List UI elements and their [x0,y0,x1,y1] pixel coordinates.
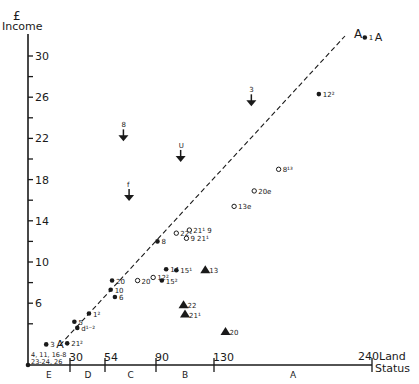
data-point: 1A [363,31,383,44]
x-axis: 305490130 EDCBA [28,351,372,380]
open-circle-marker [252,189,256,193]
zone-label: A [290,370,297,380]
data-point: 3 [246,86,256,106]
point-label: 13e [238,203,251,211]
data-point: 21² [65,340,83,348]
open-circle-marker [174,231,178,235]
y-axis: 6101418222630 [28,34,49,365]
point-label: 20 [116,278,125,286]
zone-label: D [85,370,92,380]
dot-marker [108,288,113,293]
data-point: 22 [179,300,197,310]
point-label: 21² [71,340,83,348]
open-circle-marker [151,275,155,279]
data-point: 12² [317,91,335,99]
point-label: 22 [188,302,197,310]
data-point: 8¹³ [276,166,292,174]
data-point: 20 [220,327,238,337]
data-point: 13 [200,265,218,275]
x-tick-label: 90 [155,351,169,364]
open-circle-marker [232,204,236,208]
x-tick-label: 30 [69,351,83,364]
data-point: 21¹ [180,310,201,320]
dot-marker [44,342,49,347]
zone-label: E [46,370,52,380]
dot-marker [317,92,322,97]
arrow-down-icon [246,100,256,106]
y-tick-label: 10 [35,256,49,269]
dot-marker [164,267,169,272]
point-label: 21¹ 9 [193,227,211,235]
dot-marker [174,268,179,273]
point-suffix: A [375,31,383,44]
point-label: 1 [369,34,373,42]
zone-label: C [128,370,134,380]
open-circle-marker [187,228,191,232]
point-label: 8 [121,121,125,129]
arrow-down-icon [118,135,128,141]
dot-marker [26,363,31,368]
trend-label: A [354,27,363,41]
data-point: 12² [151,274,169,282]
data-point: f [124,181,134,201]
y-axis-title: Income [2,20,43,33]
point-label: 3 [249,86,253,94]
x-axis-title-line2: Status [375,362,410,375]
data-point: U [176,142,186,162]
point-label: 1² [93,311,100,319]
data-point: 6 [113,294,124,302]
open-circle-marker [276,167,280,171]
dot-marker [72,319,77,324]
data-point: 9 21¹ [184,235,209,243]
point-label: 15¹ [180,267,192,275]
data-point: 8 [155,238,166,246]
dot-marker [155,239,160,244]
point-label: 20 [229,329,238,337]
point-label: f [127,181,130,189]
arrow-down-icon [124,195,134,201]
trend-line [60,36,345,345]
origin-label-2: 23-24, 26 [31,358,62,366]
data-point: 20 [135,278,150,286]
y-tick-label: 6 [35,297,42,310]
point-label: 13 [209,267,218,275]
y-tick-label: 14 [35,215,49,228]
point-suffix: A [56,338,64,351]
y-tick-label: 22 [35,132,49,145]
dot-marker [110,278,115,283]
point-label: 12² [323,91,335,99]
point-label: 6 [119,294,124,302]
point-label: 20 [142,278,151,286]
point-label: 12² [157,274,169,282]
x-tick-label: 130 [213,351,234,364]
dot-marker [363,35,368,40]
data-point: 20e [252,188,271,196]
point-label: 21¹ [189,312,201,320]
data-point: 13e [232,203,251,211]
point-label: 8 [161,238,165,246]
open-circle-marker [135,278,139,282]
data-point: d¹⁻² [75,325,95,333]
zone-label: B [182,370,188,380]
point-label: 3 [50,341,54,349]
data-point: 1² [87,311,101,319]
dot-marker [65,341,70,346]
point-label: d¹⁻² [81,325,95,333]
y-tick-label: 30 [35,50,49,63]
dot-marker [113,295,118,300]
data-points: 1A12²81415¹15²201061²5d¹⁻²21²3A8¹³20e13e… [26,31,383,367]
scatter-chart: 6101418222630 305490130 EDCBA £ Income 2… [0,0,419,384]
point-label: 9 21¹ [190,235,209,243]
dot-marker [87,311,92,316]
data-point [26,363,31,368]
point-label: 8¹³ [283,166,293,174]
x-tick-label: 54 [104,351,118,364]
arrow-down-icon [176,156,186,162]
point-label: 20e [258,188,271,196]
data-point: 20 [110,278,125,286]
y-tick-label: 18 [35,174,49,187]
y-tick-label: 26 [35,91,49,104]
dot-marker [75,326,80,331]
open-circle-marker [184,236,188,240]
data-point: 3A [44,338,64,351]
